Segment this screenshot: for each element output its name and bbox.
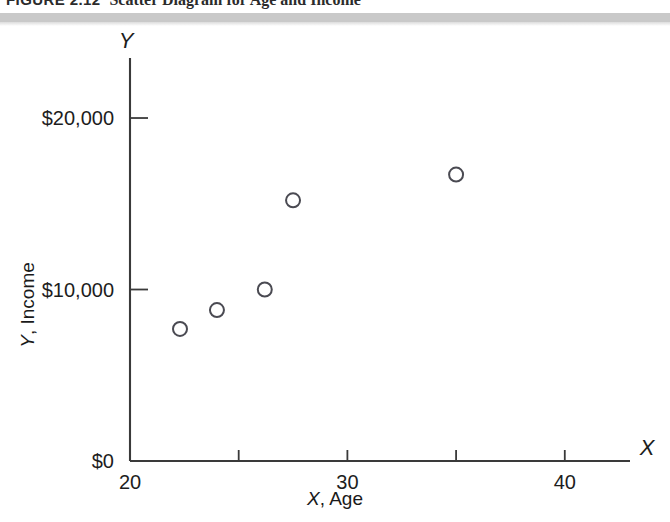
y-axis-title: Y, Income [17, 262, 38, 348]
y-axis-tick-labels: $0$10,000$20,000 [42, 107, 114, 472]
figure-number: FIGURE 2.12 [6, 0, 100, 8]
caption-divider [0, 13, 670, 22]
y-axis-title-wrap: Y, Income [17, 225, 39, 385]
data-points [173, 168, 463, 336]
y-axis-ticks [130, 118, 148, 289]
data-point [258, 283, 272, 297]
y-axis-name: Y [119, 28, 135, 53]
x-axis-title-wrap: X, Age [0, 488, 670, 510]
x-axis-ticks [130, 450, 565, 461]
y-tick-label: $10,000 [42, 279, 114, 301]
scatter-chart: 203040 $0$10,000$20,000 Y X X, Age Y, In… [0, 26, 670, 522]
figure-caption: FIGURE 2.12Scatter Diagram for Age and I… [6, 0, 361, 9]
x-axis-name: X [639, 435, 656, 460]
figure-caption-bar: FIGURE 2.12Scatter Diagram for Age and I… [0, 0, 670, 13]
x-axis-title: X, Age [307, 488, 363, 509]
y-tick-label: $0 [92, 450, 114, 472]
data-point [449, 168, 463, 182]
data-point [173, 322, 187, 336]
y-tick-label: $20,000 [42, 107, 114, 129]
data-point [286, 193, 300, 207]
figure-caption-text: Scatter Diagram for Age and Income [109, 0, 360, 8]
data-point [210, 303, 224, 317]
chart-svg: 203040 $0$10,000$20,000 Y X [0, 26, 670, 522]
